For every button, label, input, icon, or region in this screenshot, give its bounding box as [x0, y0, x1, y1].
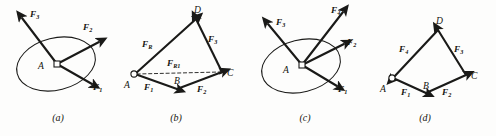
force-label-fr: FR: [141, 39, 152, 50]
point-label-b: B: [174, 75, 180, 86]
force-label-f2: F2: [346, 37, 356, 48]
resultant-vector-fr1: [137, 72, 220, 74]
force-label-f1: F1: [337, 84, 347, 95]
panel-d: A B C D F4 F3 F1 F2: [368, 0, 496, 118]
point-label-c: C: [227, 67, 234, 78]
panel-b: A B C D FR F3 FR1 F1 F2: [118, 0, 243, 118]
force-label-f2: F2: [441, 87, 451, 98]
panel-a: A F3 F2 F1: [0, 0, 118, 118]
force-vector-f3: [22, 18, 57, 64]
force-label-f3: F3: [207, 34, 217, 45]
force-vector-f1: [302, 65, 337, 86]
force-label-f4: F4: [330, 5, 340, 16]
point-a-marker: [131, 71, 137, 77]
force-label-f3: F3: [453, 44, 463, 55]
force-label-f2: F2: [196, 84, 206, 95]
force-label-f3: F3: [29, 9, 39, 20]
force-vector-f1: [57, 64, 92, 84]
point-label-a: A: [379, 83, 386, 94]
point-label-a: A: [282, 64, 289, 75]
point-label-a: A: [37, 60, 44, 71]
force-label-f1: F1: [92, 82, 102, 93]
force-vector-f1: [135, 74, 177, 89]
point-a-marker: [54, 61, 60, 67]
panel-c: A F3 F4 F2 F1: [243, 0, 368, 118]
caption-panel-a: (a): [38, 112, 78, 123]
caption-panel-c: (c): [285, 112, 325, 123]
force-vector-f3: [196, 19, 222, 72]
caption-panel-d: (d): [405, 112, 445, 123]
force-label-f2: F2: [82, 22, 92, 33]
force-vector-f3: [268, 24, 302, 65]
point-a-marker: [299, 62, 305, 68]
force-vector-f2: [302, 44, 344, 65]
force-label-f1: F1: [143, 82, 153, 93]
force-label-fr1: FR1: [166, 58, 180, 69]
force-label-f4: F4: [398, 44, 408, 55]
point-label-a: A: [123, 79, 130, 90]
point-label-c: C: [471, 70, 478, 81]
force-label-f1: F1: [400, 87, 410, 98]
figure-force-systems: A F3 F2 F1 A B: [0, 0, 496, 136]
point-label-b: B: [423, 80, 429, 91]
force-vector-f4: [393, 30, 438, 78]
point-a-marker: [389, 75, 395, 81]
point-label-d: D: [193, 4, 201, 15]
caption-panel-b: (b): [156, 112, 196, 123]
point-label-d: D: [435, 15, 443, 26]
force-vector-f2: [57, 42, 99, 64]
force-label-f3: F3: [275, 17, 285, 28]
